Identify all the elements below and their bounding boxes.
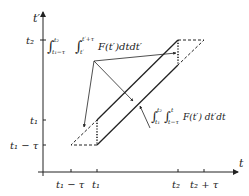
lower-int-inner-sup: t xyxy=(171,106,174,113)
upper-callout-line-left xyxy=(84,61,94,127)
x-tick-label-t2: t₂ xyxy=(172,179,180,190)
y-tick-label-t1: t₁ xyxy=(30,115,38,126)
upper-integral-label: ∫ t₂ t₁−τ ∫ t′+τ t′ F(t′)dtdt′ xyxy=(47,35,143,55)
lower-left-dashed-triangle xyxy=(71,120,97,145)
upper-integrand: F(t′)dtdt′ xyxy=(97,41,143,52)
upper-int-outer-sub: t₁−τ xyxy=(52,48,66,55)
lower-integral-label: ∫ t₂ t₁ ∫ t t−τ F(t′) dt′dt xyxy=(151,106,226,125)
integration-region-diagram: t′ t t₁ − τ t₁ t₂ t₂ + τ t₂ t₁ t₁ − τ ∫ … xyxy=(0,0,249,196)
upper-int-inner-sup: t′+τ xyxy=(82,35,95,42)
y-tick-label-t1-minus-tau: t₁ − τ xyxy=(10,140,39,151)
y-tick-label-t2: t₂ xyxy=(26,35,34,46)
lower-callout-line xyxy=(140,106,150,128)
upper-right-dashed-triangle xyxy=(178,40,204,65)
x-tick-label-t1-minus-tau: t₁ − τ xyxy=(56,179,85,190)
lower-integrand: F(t′) dt′dt xyxy=(182,112,226,122)
region-upper-edge xyxy=(97,40,178,120)
x-axis-label: t xyxy=(239,157,244,170)
lower-int-outer-sup: t₂ xyxy=(157,106,162,113)
upper-callout-line-right xyxy=(94,53,176,61)
upper-callout-line-mid xyxy=(94,61,133,101)
lower-int-outer-sub: t₁ xyxy=(155,118,160,125)
x-tick-label-t2-plus-tau: t₂ + τ xyxy=(190,179,219,190)
upper-int-inner-sub: t′ xyxy=(80,48,84,55)
x-tick-label-t1: t₁ xyxy=(92,179,100,190)
upper-int-outer-sup: t₂ xyxy=(54,36,59,43)
lower-int-inner-sub: t−τ xyxy=(168,118,179,125)
y-axis-label: t′ xyxy=(33,12,40,25)
